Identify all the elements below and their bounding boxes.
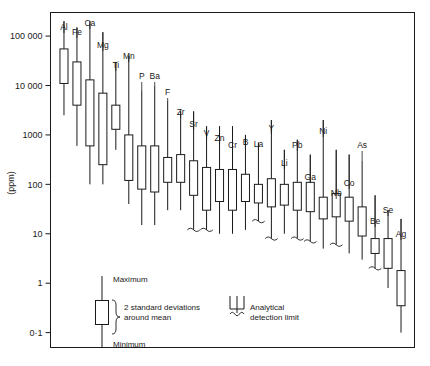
element-label-ga: Ga: [305, 172, 317, 182]
legend-detection-label-line2: detection limit: [250, 313, 300, 322]
element-label-b: B: [243, 137, 249, 147]
element-label-cr: Cr: [228, 140, 237, 150]
element-label-ba: Ba: [150, 71, 161, 81]
element-label-ti: Ti: [112, 60, 119, 70]
y-axis-tick-label: 0·1: [29, 328, 42, 338]
element-label-y: Y: [269, 123, 275, 133]
chart-container: 100 00010 00010001001010·1 (ppm) AlFeCaM…: [0, 0, 430, 366]
element-label-ag: Ag: [396, 229, 407, 239]
element-label-f: F: [165, 87, 170, 97]
y-axis-tick-label: 1: [37, 278, 42, 288]
element-label-as: As: [357, 140, 367, 150]
element-label-v: V: [204, 128, 210, 138]
legend-detection-label-line1: Analytical: [250, 303, 284, 312]
element-abundance-box-whisker-chart: 100 00010 00010001001010·1 (ppm) AlFeCaM…: [0, 0, 430, 366]
element-label-nb: Nb: [331, 188, 342, 198]
y-axis-tick-label: 10 000: [15, 81, 43, 91]
element-label-zn: Zn: [215, 133, 225, 143]
legend-minimum-label: Minimum: [113, 340, 146, 349]
element-label-zr: Zr: [177, 107, 185, 117]
y-axis-tick-label: 1000: [22, 130, 42, 140]
element-label-be: Be: [370, 216, 381, 226]
legend-maximum-label: Maximum: [113, 275, 148, 284]
element-label-co: Co: [344, 178, 355, 188]
y-axis-title: (ppm): [6, 171, 16, 195]
y-axis-tick-label: 10: [32, 229, 42, 239]
element-label-sr: Sr: [189, 119, 198, 129]
element-label-la: La: [254, 139, 264, 149]
element-label-ca: Ca: [84, 18, 95, 28]
element-label-mn: Mn: [123, 51, 135, 61]
element-label-p: P: [139, 71, 145, 81]
legend-stddev-label-line1: 2 standard deviations: [124, 303, 200, 312]
element-label-pb: Pb: [292, 140, 303, 150]
element-label-se: Se: [383, 205, 394, 215]
element-label-mg: Mg: [97, 40, 109, 50]
element-label-al: Al: [60, 22, 68, 32]
chart-background: [0, 0, 430, 366]
element-label-fe: Fe: [72, 27, 82, 37]
element-label-li: Li: [281, 158, 288, 168]
legend-stddev-label-line2: around mean: [124, 313, 171, 322]
element-label-ni: Ni: [319, 126, 327, 136]
y-axis-tick-label: 100 000: [10, 31, 43, 41]
y-axis-tick-label: 100: [27, 180, 42, 190]
